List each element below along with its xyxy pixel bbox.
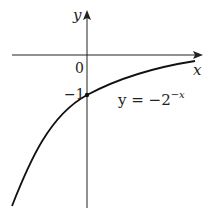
- y-intercept-point: [85, 93, 89, 97]
- function-curve: [12, 61, 195, 206]
- function-label-exponent: −x: [171, 89, 185, 100]
- function-label: y = −2−x: [117, 89, 185, 109]
- function-graph: y x 0 −1 y = −2−x: [0, 0, 210, 210]
- function-label-base: y = −2: [117, 91, 171, 109]
- origin-label: 0: [75, 60, 84, 76]
- y-tick-label: −1: [64, 86, 85, 102]
- x-axis-label: x: [193, 61, 202, 79]
- y-axis-label: y: [72, 6, 82, 24]
